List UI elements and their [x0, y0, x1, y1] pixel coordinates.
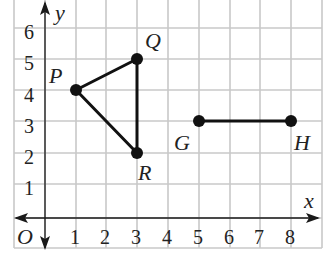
y-tick: 6: [24, 21, 34, 43]
x-tick: 1: [70, 226, 80, 248]
label-r: R: [137, 160, 152, 185]
origin-label: O: [17, 224, 33, 249]
y-tick: 2: [24, 146, 34, 168]
coordinate-plane: y x O 1 2 3 4 5 6 7 8 1 2 3 4 5 6 P Q R …: [0, 0, 335, 264]
y-tick: 5: [24, 52, 34, 74]
y-tick: 1: [24, 177, 34, 199]
point-p: [70, 84, 82, 96]
label-g: G: [174, 130, 190, 155]
y-axis-label: y: [53, 0, 65, 25]
grid: [14, 0, 322, 248]
x-tick-labels: 1 2 3 4 5 6 7 8: [70, 226, 295, 248]
x-tick: 3: [131, 226, 141, 248]
y-tick: 3: [24, 115, 34, 137]
label-p: P: [48, 63, 62, 88]
point-g: [193, 115, 205, 127]
label-h: H: [293, 130, 311, 155]
point-q: [131, 53, 143, 65]
point-r: [131, 147, 143, 159]
x-tick: 4: [162, 226, 172, 248]
x-tick: 6: [224, 226, 234, 248]
axes: [14, 1, 320, 250]
x-tick: 8: [285, 226, 295, 248]
x-axis-label: x: [303, 188, 314, 213]
x-tick: 5: [193, 226, 203, 248]
x-tick: 2: [100, 226, 110, 248]
point-h: [285, 115, 297, 127]
x-tick: 7: [254, 226, 264, 248]
y-tick-labels: 1 2 3 4 5 6: [24, 21, 34, 199]
y-tick: 4: [24, 84, 34, 106]
label-q: Q: [145, 28, 161, 53]
